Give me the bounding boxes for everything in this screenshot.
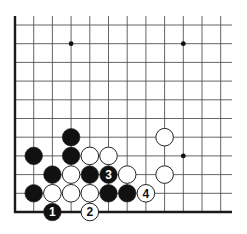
white-stone	[81, 147, 99, 165]
white-stone-icon	[156, 166, 174, 184]
white-stone-move-2: 2	[81, 203, 99, 221]
black-stone-icon	[44, 166, 62, 184]
black-stone-icon	[25, 185, 43, 203]
white-stone	[81, 185, 99, 203]
black-stone-move-1: 1	[44, 203, 62, 221]
move-number-label: 2	[86, 205, 93, 219]
black-stone-icon	[81, 166, 99, 184]
go-board-svg: 3412	[0, 0, 247, 234]
white-stone-icon	[62, 185, 80, 203]
go-board-diagram: 3412	[0, 0, 247, 234]
black-stone-icon	[62, 147, 80, 165]
grid-lines	[14, 16, 232, 213]
white-stone-icon	[62, 166, 80, 184]
white-stone	[156, 128, 174, 146]
move-number-label: 3	[105, 168, 112, 182]
white-stone-icon	[81, 185, 99, 203]
white-stone-icon	[81, 147, 99, 165]
black-stone	[62, 147, 80, 165]
black-stone	[81, 166, 99, 184]
move-number-label: 4	[143, 187, 150, 201]
white-stone	[156, 166, 174, 184]
black-stone	[25, 147, 43, 165]
star-point-icon	[181, 41, 186, 46]
white-stone-move-4: 4	[137, 185, 155, 203]
black-stone	[62, 128, 80, 146]
black-stone-icon	[118, 185, 136, 203]
star-point-icon	[69, 41, 74, 46]
black-stone-move-3: 3	[100, 166, 118, 184]
white-stone-icon	[118, 166, 136, 184]
black-stone	[25, 185, 43, 203]
white-stone-icon	[44, 185, 62, 203]
white-stone-icon	[100, 147, 118, 165]
white-stone	[100, 147, 118, 165]
white-stone	[118, 166, 136, 184]
black-stone-icon	[100, 185, 118, 203]
black-stone	[100, 185, 118, 203]
black-stone-icon	[25, 147, 43, 165]
star-point-icon	[181, 154, 186, 159]
black-stone	[118, 185, 136, 203]
move-number-label: 1	[49, 205, 56, 219]
white-stone	[62, 166, 80, 184]
white-stone	[62, 185, 80, 203]
white-stone	[44, 185, 62, 203]
white-stone-icon	[156, 128, 174, 146]
black-stone-icon	[62, 128, 80, 146]
black-stone	[44, 166, 62, 184]
